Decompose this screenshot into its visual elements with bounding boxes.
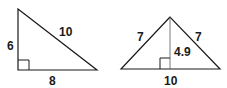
isosceles-triangle: 7 7 4.9 10 xyxy=(121,17,220,88)
isosceles-triangle-outline xyxy=(121,17,220,69)
base-label: 8 xyxy=(49,74,56,88)
hypotenuse-label: 10 xyxy=(59,25,73,39)
base-label: 10 xyxy=(164,74,178,88)
triangles-diagram: 6 10 8 7 7 4.9 10 xyxy=(0,0,227,88)
right-triangle-outline xyxy=(18,9,97,70)
right-triangle: 6 10 8 xyxy=(7,9,97,88)
right-side-label: 7 xyxy=(195,30,202,44)
left-side-label: 7 xyxy=(137,30,144,44)
right-angle-marker xyxy=(18,60,29,70)
right-angle-marker xyxy=(160,58,170,69)
height-label: 4.9 xyxy=(174,45,191,59)
left-leg-label: 6 xyxy=(7,39,14,53)
